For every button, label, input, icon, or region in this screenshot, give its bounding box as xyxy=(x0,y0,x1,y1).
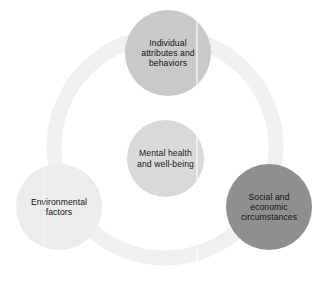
node-mental-health-and-well-being[interactable]: Mental health and well-being xyxy=(127,120,204,197)
node-environmental-factors[interactable]: Environmental factors xyxy=(16,164,102,250)
node-individual-attributes-and-behaviors[interactable]: Individual attributes and behaviors xyxy=(125,10,211,96)
node-environmental-label: Environmental factors xyxy=(28,197,90,217)
node-social-label: Social and economic circumstances xyxy=(238,192,300,222)
circular-relationship-diagram: Individual attributes and behaviors Ment… xyxy=(0,0,329,283)
node-mental-label: Mental health and well-being xyxy=(134,148,197,168)
node-individual-label: Individual attributes and behaviors xyxy=(138,38,197,68)
node-social-and-economic-circumstances[interactable]: Social and economic circumstances xyxy=(226,164,312,250)
